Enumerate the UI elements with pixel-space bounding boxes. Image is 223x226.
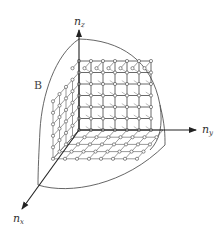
ny-axis-label: ny (202, 123, 214, 137)
nx-axis (22, 130, 79, 209)
nx-axis-label: nx (13, 212, 24, 226)
region-label-B: B (34, 79, 42, 92)
lattice-diagram: nz ny nx B (0, 0, 223, 226)
nz-axis-label: nz (74, 15, 85, 29)
axes (22, 30, 196, 209)
